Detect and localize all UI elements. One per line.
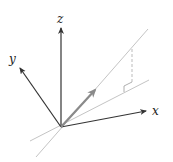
y-axis-label: y — [8, 52, 16, 66]
y-axis — [20, 68, 61, 127]
plane-line — [30, 80, 149, 141]
x-axis-label: x — [152, 104, 159, 118]
z-axis-label: z — [56, 12, 64, 26]
vector-diagram: z y x — [0, 0, 173, 162]
